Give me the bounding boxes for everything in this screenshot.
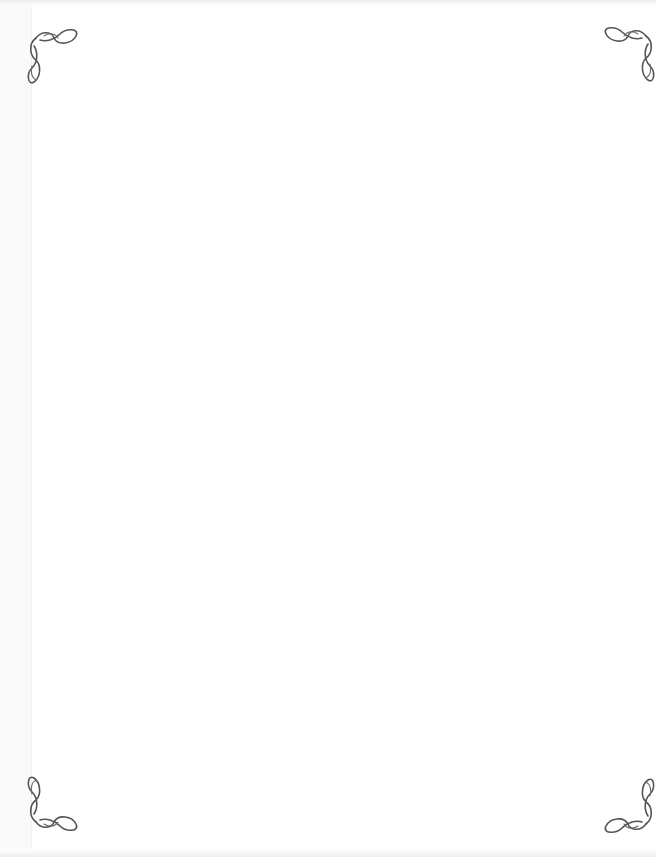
corner-flourish-icon bbox=[600, 776, 656, 836]
corner-flourish-icon bbox=[22, 774, 82, 834]
document-page bbox=[0, 0, 656, 857]
corner-flourish-icon bbox=[22, 26, 82, 86]
page-body bbox=[60, 100, 596, 760]
page-left-edge bbox=[0, 0, 32, 857]
page-bottom-edge bbox=[0, 849, 656, 857]
corner-flourish-icon bbox=[600, 24, 656, 84]
page-top-edge bbox=[0, 0, 656, 6]
